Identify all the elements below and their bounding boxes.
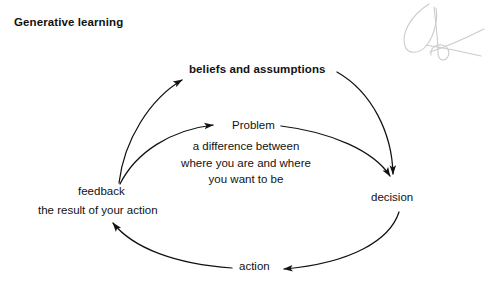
problem-description-line: you want to be: [151, 174, 341, 186]
edge-beliefs-to-decision: [337, 72, 393, 174]
edge-decision-to-action: [284, 212, 399, 269]
edge-action-to-feedback: [113, 223, 232, 268]
handwritten-scribble-icon: [396, 2, 492, 64]
problem-description-line: a difference between: [151, 141, 341, 153]
node-decision: decision: [371, 192, 413, 204]
feedback-description: the result of your action: [38, 205, 158, 217]
diagram-page: Generative learning beliefs and assumpti…: [0, 0, 498, 287]
node-feedback: feedback: [78, 186, 125, 198]
node-action: action: [239, 261, 270, 273]
problem-description: a difference between where you are and w…: [151, 141, 341, 191]
node-beliefs-and-assumptions: beliefs and assumptions: [189, 64, 326, 76]
node-problem: Problem: [232, 120, 275, 132]
problem-description-line: where you are and where: [151, 158, 341, 170]
